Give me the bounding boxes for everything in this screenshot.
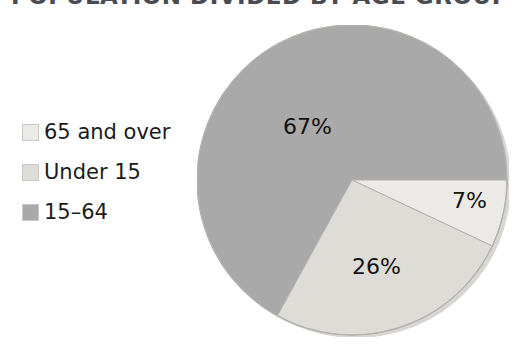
legend-item-under-15[interactable]: Under 15 <box>22 152 192 192</box>
legend-swatch-icon <box>22 164 39 181</box>
legend-label: 65 and over <box>44 120 170 144</box>
page-title: POPULATION DIVIDED BY AGE GROUP <box>0 0 520 9</box>
slice-value-under-15: 26% <box>352 254 401 279</box>
legend-label: 15–64 <box>44 200 108 224</box>
pie-chart: 7% 67% 26% <box>197 25 509 337</box>
slice-value-15-64: 67% <box>283 114 332 139</box>
legend-item-15-64[interactable]: 15–64 <box>22 192 192 232</box>
chart-legend: 65 and over Under 15 15–64 <box>22 112 192 232</box>
legend-label: Under 15 <box>44 160 141 184</box>
pie-chart-svg <box>197 25 509 337</box>
legend-swatch-icon <box>22 204 39 221</box>
legend-item-65-and-over[interactable]: 65 and over <box>22 112 192 152</box>
legend-swatch-icon <box>22 124 39 141</box>
slice-value-65-and-over: 7% <box>452 188 487 213</box>
